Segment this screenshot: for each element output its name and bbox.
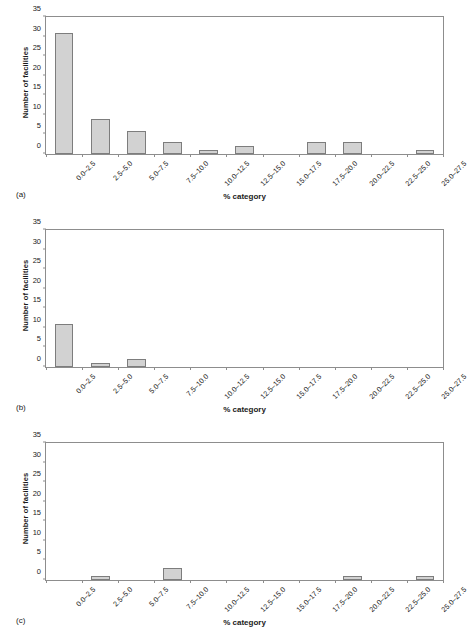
x-tick-label: 15.0–17.5	[294, 159, 323, 188]
plot-inner-a: 05101520253035	[46, 17, 443, 154]
plot-inner-c: 05101520253035	[46, 443, 443, 580]
x-tick-label: 22.5–25.0	[403, 585, 432, 614]
bar-slot	[226, 443, 262, 580]
bar-slot	[190, 443, 226, 580]
x-tick-label: 5.0–7.5	[147, 372, 170, 395]
bar	[416, 150, 435, 154]
x-tick-label: 5.0–7.5	[147, 585, 170, 608]
chart-panel-c: Number of facilities 05101520253035 0.0–…	[0, 426, 456, 639]
y-tick-label: 15	[33, 82, 46, 91]
y-tick-label: 0	[37, 567, 46, 576]
bar-slot	[407, 230, 443, 367]
bar-slot	[263, 443, 299, 580]
x-axis-labels-a: 0.0–2.52.5–5.05.0–7.57.5–10.010.0–12.512…	[45, 156, 444, 196]
bar-slot	[118, 17, 154, 154]
x-tick-label: 15.0–17.5	[294, 372, 323, 401]
bar-slot	[335, 17, 371, 154]
y-tick-label: 20	[33, 488, 46, 497]
x-tick-label: 2.5–5.0	[111, 585, 134, 608]
x-axis-labels-c: 0.0–2.52.5–5.05.0–7.57.5–10.010.0–12.512…	[45, 582, 444, 622]
bar-slot	[46, 443, 82, 580]
y-tick-label: 35	[33, 217, 46, 226]
x-tick-label: 0.0–2.5	[75, 159, 98, 182]
x-tick-label: 12.5–15.0	[258, 585, 287, 614]
bar-slot	[46, 17, 82, 154]
panel-tag-c: (c)	[16, 616, 25, 625]
x-tick-label: 15.0–17.5	[294, 585, 323, 614]
x-tick-label: 10.0–12.5	[222, 159, 251, 188]
x-tick-label: 25.0–27.5	[440, 372, 469, 401]
x-axis-title-a: % category	[45, 192, 444, 201]
bar-slot	[82, 443, 118, 580]
bar-slot	[226, 17, 262, 154]
x-tick-label: 7.5–10.0	[184, 159, 210, 185]
chart-panel-a: Number of facilities 05101520253035 0.0–…	[0, 0, 456, 213]
bar-slot	[335, 443, 371, 580]
x-tick-label: 2.5–5.0	[111, 372, 134, 395]
chart-panel-b: Number of facilities 05101520253035 0.0–…	[0, 213, 456, 426]
plot-inner-b: 05101520253035	[46, 230, 443, 367]
bar-slot	[371, 230, 407, 367]
x-tick-label: 2.5–5.0	[111, 159, 134, 182]
x-tick-label: 10.0–12.5	[222, 372, 251, 401]
bar-series	[46, 443, 443, 580]
x-tick-label: 20.0–22.5	[367, 372, 396, 401]
y-tick-label: 25	[33, 256, 46, 265]
bar-slot	[407, 443, 443, 580]
bar	[343, 142, 362, 154]
x-tick-label: 20.0–22.5	[367, 159, 396, 188]
x-tick-label: 0.0–2.5	[75, 585, 98, 608]
x-axis-title-c: % category	[45, 618, 444, 627]
panel-tag-b: (b)	[16, 403, 26, 412]
bar	[127, 359, 146, 367]
y-tick-label: 20	[33, 62, 46, 71]
y-axis-title-a: Number of facilities	[21, 18, 30, 148]
y-tick-label: 35	[33, 4, 46, 13]
y-axis-title-b: Number of facilities	[21, 231, 30, 361]
bar-slot	[154, 443, 190, 580]
bar	[163, 142, 182, 154]
bar-slot	[154, 230, 190, 367]
x-tick-label: 12.5–15.0	[258, 159, 287, 188]
y-tick-label: 25	[33, 469, 46, 478]
y-tick-label: 30	[33, 23, 46, 32]
bar-slot	[263, 230, 299, 367]
bar	[235, 146, 254, 154]
bar-slot	[407, 17, 443, 154]
bar-slot	[263, 17, 299, 154]
y-tick-label: 20	[33, 275, 46, 284]
y-tick-label: 10	[33, 527, 46, 536]
y-tick-label: 5	[37, 547, 46, 556]
y-tick-label: 0	[37, 141, 46, 150]
y-tick-label: 5	[37, 334, 46, 343]
x-tick-label: 17.5–20.0	[331, 585, 360, 614]
bar-slot	[118, 443, 154, 580]
x-tick-label: 20.0–22.5	[367, 585, 396, 614]
bar	[199, 150, 218, 154]
bar-slot	[371, 443, 407, 580]
y-tick-label: 10	[33, 314, 46, 323]
y-tick-label: 0	[37, 354, 46, 363]
x-tick-label: 25.0–27.5	[440, 159, 469, 188]
bar-slot	[299, 443, 335, 580]
bar-series	[46, 230, 443, 367]
bar-slot	[190, 230, 226, 367]
bar-slot	[82, 230, 118, 367]
y-tick-label: 30	[33, 236, 46, 245]
x-tick-label: 17.5–20.0	[331, 372, 360, 401]
plot-area-c: 05101520253035	[45, 442, 444, 581]
bar-slot	[299, 230, 335, 367]
bar-slot	[335, 230, 371, 367]
bar	[91, 576, 110, 580]
bar	[91, 119, 110, 154]
bar	[91, 363, 110, 367]
bar	[416, 576, 435, 580]
bar-slot	[82, 17, 118, 154]
y-axis-title-c: Number of facilities	[21, 444, 30, 574]
y-tick-label: 10	[33, 101, 46, 110]
panel-tag-a: (a)	[16, 190, 26, 199]
bar-slot	[154, 17, 190, 154]
x-axis-title-b: % category	[45, 405, 444, 414]
bar	[163, 568, 182, 580]
bar-slot	[118, 230, 154, 367]
